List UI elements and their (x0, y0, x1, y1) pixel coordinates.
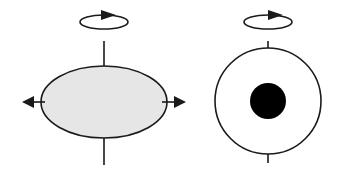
oblate-ellipse (41, 66, 167, 138)
rotation-arrow-icon (80, 10, 128, 29)
oblate-body-figure (22, 10, 186, 165)
rotation-arrow-icon (244, 10, 292, 29)
dark-core (250, 83, 286, 119)
rotation-diagram (0, 0, 338, 177)
round-body-figure (215, 10, 321, 163)
